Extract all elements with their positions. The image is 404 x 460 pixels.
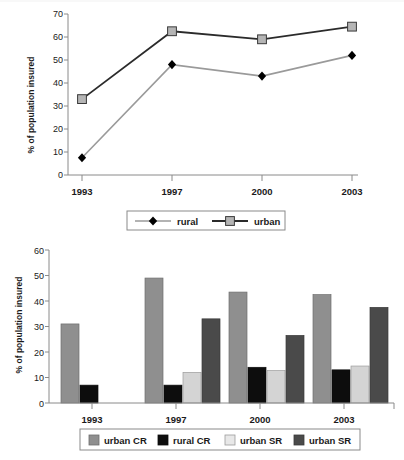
line-chart-figure: % of population insured 70 60 50 40 30 2… [0,0,404,236]
bar-group-1997 [145,278,220,403]
bar-urban-sr-dark [286,335,304,403]
x-tick-label: 2000 [251,186,272,197]
legend-item-urban-sr-dark[interactable]: urban SR [294,435,351,446]
urban-cr-swatch-icon [89,435,99,445]
y-tick-label: 50 [53,55,63,65]
y-tick-label: 10 [34,373,44,383]
urban-sr-light-swatch-icon [225,435,235,445]
legend-item-urban-sr-light[interactable]: urban SR [225,435,282,446]
bar-rural-cr [164,385,182,403]
y-tick-label: 20 [34,348,44,358]
x-tick-label: 2000 [249,414,270,425]
x-tick-label: 1993 [71,186,92,197]
bar-group-2003 [313,295,388,403]
bar-chart-figure: % of population insured 60 50 40 30 20 1… [0,240,404,460]
legend-label-urban-sr-dark: urban SR [309,435,351,446]
line-chart-x-tick-labels: 1993 1997 2000 2003 [71,186,362,197]
bar-urban-sr-light [267,371,285,403]
bar-urban-sr-light [351,366,369,403]
y-tick-label: 60 [53,32,63,42]
line-chart-y-tick-labels: 70 60 50 40 30 20 10 0 [53,9,63,180]
y-tick-label: 40 [53,78,63,88]
legend-item-urban-cr[interactable]: urban CR [89,435,147,446]
bar-group-1993 [61,324,98,403]
line-chart-y-axis [64,14,68,175]
x-tick-label: 1997 [165,414,186,425]
line-chart-svg: % of population insured 70 60 50 40 30 2… [0,0,404,236]
bar-urban-cr [229,292,247,403]
bar-chart-y-tick-labels: 60 50 40 30 20 10 0 [34,246,44,409]
y-tick-label: 30 [34,322,44,332]
line-series-rural [78,51,356,163]
y-tick-label: 20 [53,124,63,134]
legend-label-urban-cr: urban CR [104,435,147,446]
legend-label-rural-cr: rural CR [173,435,211,446]
bar-chart-svg: % of population insured 60 50 40 30 20 1… [0,240,404,460]
rural-markers [78,51,356,163]
bar-chart-legend: urban CR rural CR urban SR urban SR [80,429,360,450]
scan-artifact [0,0,404,2]
x-tick-label: 2003 [341,186,362,197]
y-tick-label: 60 [34,246,44,256]
bar-urban-sr-dark [370,307,388,403]
y-tick-label: 0 [58,170,63,180]
x-tick-label: 2003 [333,414,354,425]
legend-item-rural-cr[interactable]: rural CR [158,435,211,446]
y-tick-label: 40 [34,297,44,307]
x-tick-label: 1997 [161,186,182,197]
urban-marker-icon [226,217,235,226]
bar-urban-sr-light [183,372,201,403]
line-chart-x-axis [68,175,358,181]
y-tick-label: 70 [53,9,63,19]
y-tick-label: 50 [34,271,44,281]
x-tick-label: 1993 [81,414,102,425]
bar-urban-cr [145,278,163,403]
legend-label-rural: rural [177,216,198,227]
bar-group-2000 [229,292,304,403]
bar-rural-cr [248,367,266,403]
bar-chart-x-tick-labels: 1993 1997 2000 2003 [81,414,354,425]
bar-chart-y-axis-title: % of population insured [14,277,24,374]
rural-cr-swatch-icon [158,435,168,445]
bar-chart-y-axis [45,250,49,403]
legend-label-urban-sr-light: urban SR [240,435,282,446]
urban-sr-dark-swatch-icon [294,435,304,445]
bar-rural-cr [80,385,98,403]
bar-chart-x-axis [49,403,394,409]
bar-urban-cr [61,324,79,403]
line-chart-y-axis-title: % of population insured [26,57,36,154]
y-tick-label: 0 [39,399,44,409]
bar-urban-cr [313,295,331,403]
line-chart-legend: rural urban [127,211,285,230]
legend-label-urban: urban [254,216,281,227]
y-tick-label: 10 [53,147,63,157]
bar-rural-cr [332,370,350,403]
bar-urban-sr-dark [202,319,220,403]
y-tick-label: 30 [53,101,63,111]
line-series-urban [78,22,357,103]
